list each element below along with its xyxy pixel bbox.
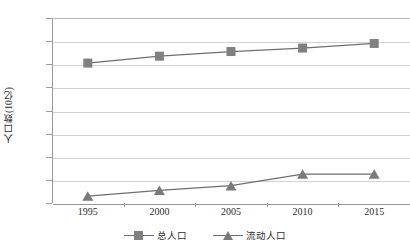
legend-item-label: 总人口 [157, 228, 187, 242]
gridline-12 [53, 65, 410, 66]
population-line-chart: 人口数(10亿) 0246810121416 19952000200520102… [0, 0, 410, 252]
gridline-10 [53, 88, 410, 89]
chart-legend: 总人口流动人口 [0, 228, 410, 242]
x-tick-label: 2000 [132, 206, 186, 217]
x-tick-label: 2010 [276, 206, 330, 217]
legend-square-icon [134, 231, 143, 240]
gridline-14 [53, 42, 410, 43]
plot-area [52, 18, 410, 203]
gridline-4 [53, 158, 410, 159]
legend-item-label: 流动人口 [246, 228, 286, 242]
gridline-8 [53, 112, 410, 113]
square-marker-icon [124, 229, 154, 241]
gridline-2 [53, 181, 410, 182]
x-tick-label: 1995 [61, 206, 115, 217]
y-tick-mark [46, 203, 52, 204]
x-tick-label: 2015 [347, 206, 401, 217]
legend-item-2[interactable]: 流动人口 [213, 228, 286, 242]
gridline-0 [53, 204, 410, 205]
legend-triangle-icon [223, 231, 233, 240]
legend-item-1[interactable]: 总人口 [124, 228, 187, 242]
gridline-6 [53, 135, 410, 136]
x-tick-label: 2005 [204, 206, 258, 217]
triangle-marker-icon [213, 229, 243, 241]
y-axis-title: 人口数(10亿) [0, 60, 18, 170]
